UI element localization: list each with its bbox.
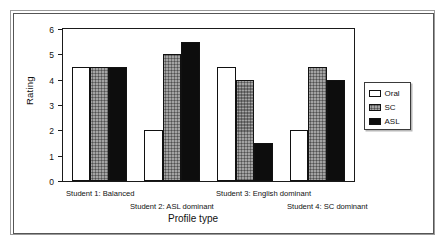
bar-sc-group-4 [308, 67, 327, 181]
legend-label-oral: Oral [385, 90, 400, 98]
bar-sc-group-1 [90, 67, 109, 181]
legend-label-sc: SC [385, 104, 396, 112]
bars-layer [63, 29, 354, 181]
y-tick-label-5: 5 [49, 51, 54, 60]
legend-box: Oral SC ASL [364, 82, 411, 130]
legend-swatch-oral-icon [369, 90, 381, 97]
bar-asl-group-1 [109, 67, 128, 181]
y-tick-label-6: 6 [49, 26, 54, 35]
y-tick-label-4: 4 [49, 76, 54, 85]
legend-label-asl: ASL [385, 118, 400, 126]
y-axis-title: Rating [24, 76, 35, 105]
y-tick-label-1: 1 [49, 152, 54, 161]
figure-canvas: Rating 0123456 Student 1: Balanced Stude… [0, 0, 447, 251]
x-tick-label-student-1: Student 1: Balanced [66, 190, 134, 198]
bar-sc-group-3 [236, 80, 255, 181]
y-tick-0: 0 [58, 181, 63, 182]
bar-asl-group-2 [181, 42, 200, 181]
plot-area: 0123456 [62, 28, 355, 182]
legend-entry-asl: ASL [369, 115, 410, 128]
bar-oral-group-4 [290, 130, 309, 181]
bar-oral-group-1 [72, 67, 91, 181]
legend-entry-sc: SC [369, 101, 410, 114]
legend-swatch-asl-icon [369, 118, 381, 125]
x-axis-title: Profile type [168, 213, 218, 224]
y-tick-label-3: 3 [49, 102, 54, 111]
x-tick-label-student-2: Student 2: ASL dominant [130, 203, 214, 211]
legend-swatch-sc-icon [369, 104, 381, 111]
bar-asl-group-4 [327, 80, 346, 181]
bar-asl-group-3 [254, 143, 273, 181]
bar-oral-group-2 [144, 130, 163, 181]
legend-entry-oral: Oral [369, 87, 410, 100]
bar-sc-group-2 [163, 54, 182, 181]
x-tick-label-student-3: Student 3: English dominant [216, 190, 311, 198]
bar-oral-group-3 [217, 67, 236, 181]
y-tick-label-0: 0 [49, 178, 54, 187]
x-tick-label-student-4: Student 4: SC dominant [287, 203, 368, 211]
y-tick-label-2: 2 [49, 127, 54, 136]
